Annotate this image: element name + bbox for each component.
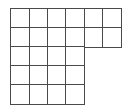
grid-cell [10, 65, 30, 85]
grid-cell [47, 65, 67, 85]
grid-cell [29, 65, 49, 85]
l-shaped-grid [0, 0, 130, 109]
grid-cell [29, 8, 49, 28]
grid-cell [65, 65, 85, 85]
grid-cell [47, 27, 67, 47]
grid-cell [47, 46, 67, 66]
grid-cell [84, 27, 104, 47]
grid-cell [65, 8, 85, 28]
grid-cell [29, 46, 49, 66]
grid-cell [10, 46, 30, 66]
grid-cell [65, 27, 85, 47]
grid-cell [10, 27, 30, 47]
grid-cell [102, 27, 122, 47]
grid-cell [10, 84, 30, 104]
grid-cell [29, 27, 49, 47]
grid-cell [65, 46, 85, 66]
grid-cell [102, 8, 122, 28]
grid-cell [29, 84, 49, 104]
grid-cell [65, 84, 85, 104]
grid-cell [47, 84, 67, 104]
grid-cell [47, 8, 67, 28]
grid-cell [10, 8, 30, 28]
grid-cell [84, 8, 104, 28]
